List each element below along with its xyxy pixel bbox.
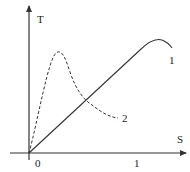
x-axis-label: S <box>177 133 183 145</box>
diagram: T S 0 1 1 2 <box>0 0 190 172</box>
origin-label: 0 <box>35 157 41 169</box>
x-tick-label-1: 1 <box>134 157 140 169</box>
curve-1-label: 1 <box>169 54 175 66</box>
y-axis-label: T <box>37 13 44 25</box>
curve-1 <box>29 39 172 153</box>
curve-2-label: 2 <box>122 112 128 124</box>
curve-2 <box>29 52 118 153</box>
